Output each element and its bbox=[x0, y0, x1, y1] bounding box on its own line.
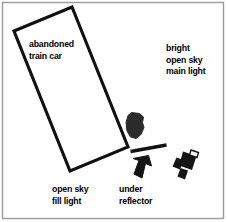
label-under-reflector: under reflector bbox=[119, 183, 152, 206]
label-abandoned-train-car: abandoned train car bbox=[29, 38, 74, 61]
lighting-diagram-frame: abandoned train car bright open sky main… bbox=[0, 0, 227, 222]
label-open-sky-fill-light: open sky fill light bbox=[52, 183, 88, 206]
diagram-canvas bbox=[0, 0, 227, 222]
label-bright-open-sky-main-light: bright open sky main light bbox=[166, 42, 205, 77]
subject-figure-shape bbox=[126, 113, 144, 139]
